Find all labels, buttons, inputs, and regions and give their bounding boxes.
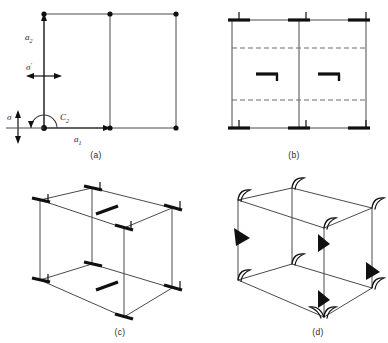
label-sigma-prime: σ′ xyxy=(26,62,32,72)
label-sigma: σ xyxy=(7,112,12,122)
figure-root: a2 a1 σ′ σ C2 (a) xyxy=(0,0,388,343)
caption-a: (a) xyxy=(90,150,102,160)
two-fold-symbol-right xyxy=(318,74,340,81)
two-fold-symbol-top-face xyxy=(96,206,118,214)
label-a1: a1 xyxy=(74,134,82,146)
panel-a: a2 a1 σ′ σ C2 (a) xyxy=(0,0,194,172)
panel-d: (d) xyxy=(194,172,388,343)
two-fold-symbol-bottom-face xyxy=(96,282,118,290)
caption-c: (c) xyxy=(114,327,125,337)
two-fold-symbol-left xyxy=(256,74,278,81)
vertex-mirror-bars xyxy=(32,186,182,319)
panel-b: (b) xyxy=(194,0,388,172)
vertex-hook-symbols xyxy=(238,178,384,318)
vertex-ticks xyxy=(48,182,180,290)
label-a2: a2 xyxy=(25,32,33,44)
panel-c: (c) xyxy=(0,172,194,343)
caption-b: (b) xyxy=(288,150,300,160)
label-c2: C2 xyxy=(60,112,69,124)
caption-d: (d) xyxy=(312,327,324,337)
